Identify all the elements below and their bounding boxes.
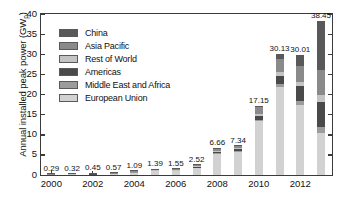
bar-segment: [47, 174, 55, 175]
legend-swatch: [59, 42, 78, 50]
chart-legend: ChinaAsia PacificRest of WorldAmericasMi…: [59, 26, 170, 104]
x-tick-label: 2006: [165, 178, 186, 189]
bar-segment: [110, 174, 118, 175]
bar[interactable]: 30.01: [296, 55, 304, 175]
bar[interactable]: 38.45: [317, 21, 325, 175]
bar-segment: [234, 145, 242, 146]
legend-item-asia-pacific[interactable]: Asia Pacific: [59, 39, 170, 52]
bar-segment: [130, 171, 138, 172]
legend-label: Americas: [85, 67, 121, 77]
bar-value-label: 1.09: [127, 161, 143, 170]
y-tick-mark-left: [41, 54, 45, 55]
bar-value-label: 2.52: [189, 155, 205, 164]
bar-value-label: 30.13: [270, 44, 290, 53]
bar-segment: [296, 86, 304, 100]
bar-segment: [255, 107, 263, 113]
bar-segment: [193, 168, 201, 175]
bar-segment: [172, 171, 180, 175]
legend-swatch: [59, 55, 78, 63]
x-tick-label: 2008: [207, 178, 228, 189]
bar-segment: [296, 66, 304, 82]
plot-area: 0510152025303540 20002002200420062008201…: [40, 13, 333, 176]
bar-segment: [193, 164, 201, 165]
bar-segment: [276, 54, 284, 59]
y-tick-label: 20: [26, 88, 37, 99]
bar-segment: [89, 174, 97, 175]
bar[interactable]: 0.29: [47, 174, 55, 175]
legend-item-china[interactable]: China: [59, 26, 170, 39]
bar[interactable]: 30.13: [276, 54, 284, 175]
bar-segment: [276, 72, 284, 76]
chart-figure: Annual installed peak power (GWp) 051015…: [0, 0, 341, 206]
y-tick-label: 40: [26, 8, 37, 19]
bar[interactable]: 0.32: [68, 174, 76, 175]
bar-segment: [213, 149, 221, 151]
bar-segment: [193, 165, 201, 166]
legend-item-rest-of-world[interactable]: Rest of World: [59, 52, 170, 65]
legend-item-middle-east-and-africa[interactable]: Middle East and Africa: [59, 78, 170, 91]
y-tick-mark-left: [41, 74, 45, 75]
legend-item-americas[interactable]: Americas: [59, 65, 170, 78]
bar[interactable]: 1.09: [130, 171, 138, 175]
bar-segment: [151, 169, 159, 170]
bar[interactable]: 6.66: [213, 148, 221, 175]
bar-segment: [234, 148, 242, 149]
bar-segment: [276, 59, 284, 72]
y-tick-mark-right: [328, 114, 332, 115]
y-tick-mark-left: [41, 114, 45, 115]
bar-segment: [317, 95, 325, 103]
bar-segment: [130, 172, 138, 175]
bar[interactable]: 2.52: [193, 165, 201, 175]
y-axis-title: Annual installed peak power (GWp): [17, 0, 30, 173]
legend-item-european-union[interactable]: European Union: [59, 91, 170, 104]
y-tick-mark-right: [328, 175, 332, 176]
bar-segment: [255, 121, 263, 175]
bar[interactable]: 0.57: [110, 173, 118, 175]
x-tick-label: 2012: [290, 178, 311, 189]
bar-segment: [317, 21, 325, 70]
bar-segment: [172, 168, 180, 169]
y-tick-label: 35: [26, 28, 37, 39]
y-tick-mark-left: [41, 134, 45, 135]
bar-segment: [89, 173, 97, 174]
bar-segment: [255, 120, 263, 121]
bar[interactable]: 0.45: [89, 173, 97, 175]
y-tick-mark-right: [328, 74, 332, 75]
y-tick-label: 30: [26, 48, 37, 59]
bar-segment: [317, 70, 325, 95]
bar[interactable]: 17.15: [255, 106, 263, 175]
y-tick-mark-left: [41, 14, 45, 15]
bar-segment: [234, 149, 242, 151]
bar[interactable]: 7.34: [234, 146, 242, 175]
bar-segment: [172, 169, 180, 170]
y-tick-mark-right: [328, 34, 332, 35]
bar-segment: [68, 174, 76, 175]
bar-segment: [234, 146, 242, 148]
bar-value-label: 0.29: [44, 164, 60, 173]
bar-value-label: 0.45: [85, 163, 101, 172]
bar-segment: [296, 82, 304, 87]
bar-value-label: 0.57: [106, 163, 122, 172]
x-tick-label: 2010: [248, 178, 269, 189]
bar-segment: [317, 102, 325, 126]
bar[interactable]: 1.55: [172, 169, 180, 175]
legend-label: Middle East and Africa: [85, 80, 170, 90]
bar-segment: [255, 116, 263, 120]
bar[interactable]: 1.39: [151, 169, 159, 175]
legend-label: Asia Pacific: [85, 41, 129, 51]
x-tick-label: 2002: [82, 178, 103, 189]
y-tick-label: 15: [26, 108, 37, 119]
bar-value-label: 30.01: [290, 45, 310, 54]
bar-segment: [151, 169, 159, 170]
legend-swatch: [59, 29, 78, 37]
bar-segment: [213, 148, 221, 149]
bar-value-label: 6.66: [210, 138, 226, 147]
bar-segment: [193, 167, 201, 168]
bar-segment: [255, 114, 263, 116]
y-tick-label: 5: [32, 148, 37, 159]
y-tick-mark-left: [41, 154, 45, 155]
bar-segment: [213, 152, 221, 154]
bar-segment: [276, 87, 284, 175]
bar-segment: [276, 76, 284, 85]
legend-swatch: [59, 68, 78, 76]
